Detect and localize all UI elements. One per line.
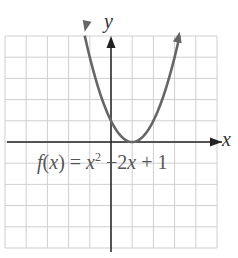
x-axis-label: x — [222, 128, 231, 151]
eq-x3: x — [127, 151, 136, 173]
curve-left-arrow-icon — [83, 20, 92, 32]
eq-x1: x — [49, 151, 58, 173]
graph — [0, 0, 238, 258]
y-axis-label: y — [104, 10, 113, 33]
eq-tail: + 1 — [136, 151, 167, 173]
eq-mid: −2 — [101, 151, 127, 173]
x-axis-arrow-icon — [210, 138, 222, 147]
eq-close-eq: ) = — [58, 151, 86, 173]
y-axis-arrow-icon — [107, 36, 116, 48]
function-label: f(x) = x2 −2x + 1 — [37, 150, 167, 174]
eq-x2: x — [86, 151, 95, 173]
